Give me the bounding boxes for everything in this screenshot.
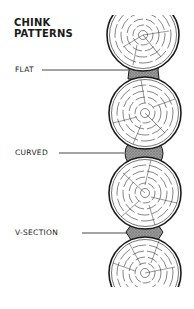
log-3 — [109, 157, 181, 229]
log-1 — [107, 0, 179, 71]
log-wall-illustration — [0, 0, 194, 309]
log-2 — [109, 77, 181, 149]
log-4 — [109, 237, 181, 309]
